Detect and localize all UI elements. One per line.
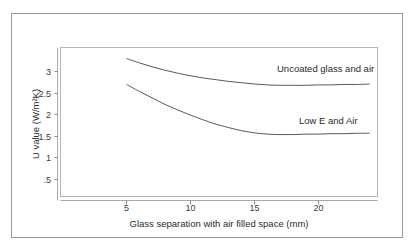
y-axis-title: U value (W/m²K): [30, 89, 41, 159]
series-label-low-e-and-air: Low E and Air: [299, 115, 358, 126]
x-tick-label-0: 5: [124, 203, 129, 213]
x-tick-label-3: 20: [313, 203, 323, 213]
y-tick-label-5: 3: [46, 67, 51, 77]
x-axis-title: Glass separation with air filled space (…: [130, 218, 309, 229]
y-tick-label-1: 1: [46, 153, 51, 163]
series-label-uncoated-glass-and-air: Uncoated glass and air: [277, 63, 374, 74]
series-line-low-e-and-air: [127, 84, 370, 134]
chart-figure: 5 10 15 20 .5 1 1.5 2 2.5 3 Uncoated gla…: [0, 0, 419, 252]
chart-canvas: 5 10 15 20 .5 1 1.5 2 2.5 3 Uncoated gla…: [0, 0, 419, 252]
y-tick-label-3: 2: [46, 110, 51, 120]
x-tick-label-1: 10: [185, 203, 195, 213]
y-tick-label-0: .5: [43, 175, 51, 185]
x-axis-ticks: [127, 201, 319, 205]
x-tick-label-2: 15: [249, 203, 259, 213]
